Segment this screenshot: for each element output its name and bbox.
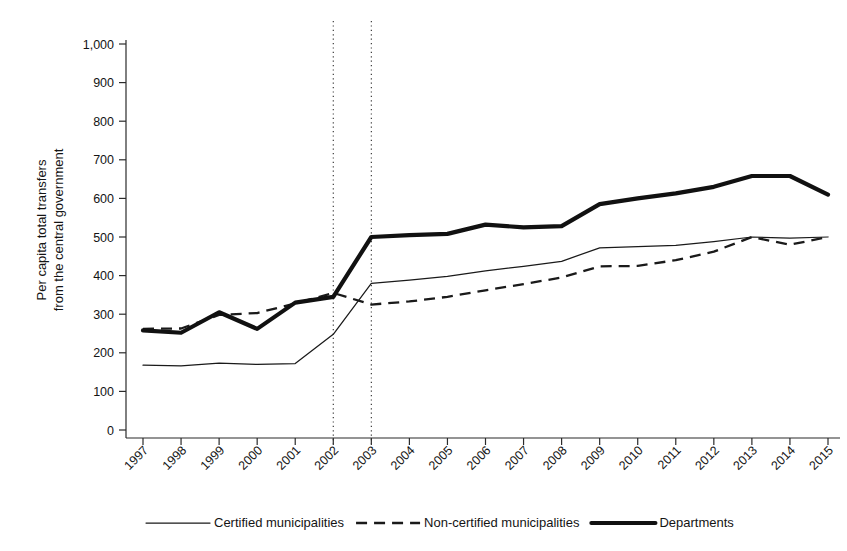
y-tick-label: 1,000 [83,38,114,52]
legend-label-certified-municipalities: Certified municipalities [214,515,345,530]
line-chart: Per capita total transfers from the cent… [0,0,847,551]
x-tick-label: 2008 [540,443,570,473]
y-tick-label: 800 [93,115,114,129]
x-tick-label: 2002 [312,443,342,473]
y-axis-title-line2: from the central government [51,148,66,311]
chart-legend: Certified municipalitiesNon-certified mu… [146,515,734,530]
legend-label-non-certified-municipalities: Non-certified municipalities [424,515,580,530]
x-tick-label: 2013 [730,443,760,473]
y-tick-label: 300 [93,308,114,322]
series-line-certified-municipalities [143,237,828,366]
y-tick-label: 500 [93,231,114,245]
x-tick-label: 2004 [388,443,418,473]
x-tick-label: 2005 [426,443,456,473]
x-tick-label: 2010 [616,443,646,473]
x-tick-label: 2000 [236,443,266,473]
x-tick-label: 1997 [122,443,152,473]
x-tick-label: 1998 [160,443,190,473]
y-tick-label: 900 [93,76,114,90]
x-tick-label: 2003 [350,443,380,473]
legend-label-departments: Departments [659,515,734,530]
y-axis-title-line1: Per capita total transfers [34,159,49,300]
x-tick-label: 2009 [578,443,608,473]
y-tick-label: 0 [107,424,114,438]
series-line-non-certified-municipalities [143,237,828,329]
x-tick-label: 2014 [768,443,798,473]
y-axis-ticks: 01002003004005006007008009001,000 [83,38,126,438]
series-line-departments [143,176,828,333]
y-tick-label: 700 [93,153,114,167]
x-tick-label: 2012 [692,443,722,473]
x-axis-ticks: 1997199819992000200120022003200420052006… [122,438,837,473]
y-tick-label: 100 [93,385,114,399]
x-tick-label: 2015 [807,443,837,473]
reference-lines [333,21,371,444]
x-tick-label: 2007 [502,443,532,473]
y-tick-label: 200 [93,346,114,360]
x-tick-label: 2006 [464,443,494,473]
x-tick-label: 1999 [198,443,228,473]
x-tick-label: 2011 [655,443,684,472]
x-tick-label: 2001 [274,443,304,473]
data-series-group [143,176,828,366]
chart-figure: Per capita total transfers from the cent… [0,0,847,551]
y-axis-title: Per capita total transfers from the cent… [34,148,66,311]
y-tick-label: 400 [93,269,114,283]
y-tick-label: 600 [93,192,114,206]
